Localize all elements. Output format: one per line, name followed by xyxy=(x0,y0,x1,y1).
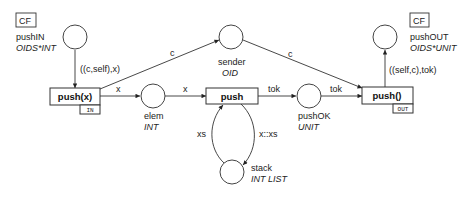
place-pushok xyxy=(297,84,321,108)
place-stack xyxy=(220,160,244,184)
arc-label-push-to-stack: x::xs xyxy=(259,129,278,139)
petri-net-diagram: ((c,self),x) x c x tok xs x::xs tok c ((… xyxy=(0,0,474,200)
arc-label-pushx-to-sender: c xyxy=(170,48,175,58)
transition-label-push-out: push() xyxy=(372,90,401,101)
place-label-pushout: pushOUT xyxy=(410,32,449,42)
cf-tag-pushin: CF xyxy=(19,16,31,26)
arc-label-pushok-to-pushout: tok xyxy=(330,84,343,94)
place-elem xyxy=(141,84,165,108)
arc-label-pushin-to-pushx: ((c,self),x) xyxy=(80,64,120,74)
transition-tag-out: OUT xyxy=(398,106,409,113)
arc-label-pushout-to-pushoutplace: ((self,c),tok) xyxy=(389,65,437,75)
transition-label-push-x: push(x) xyxy=(58,91,92,102)
place-type-pushin: OIDS*INT xyxy=(16,43,58,53)
cf-tag-pushout: CF xyxy=(413,16,425,26)
place-type-pushok: UNIT xyxy=(298,122,320,132)
arc-label-sender-to-pushout: c xyxy=(288,49,293,59)
place-type-pushout: OIDS*UNIT xyxy=(410,43,458,53)
place-label-pushin: pushIN xyxy=(16,32,45,42)
place-label-elem: elem xyxy=(144,111,164,121)
place-pushout xyxy=(373,25,397,49)
place-label-pushok: pushOK xyxy=(298,111,331,121)
place-type-stack: INT LIST xyxy=(251,174,289,184)
place-type-elem: INT xyxy=(144,122,160,132)
arc-sender-to-pushout xyxy=(243,40,362,88)
place-sender xyxy=(219,25,243,49)
transition-tag-in: IN xyxy=(86,107,94,114)
arc-label-stack-to-push: xs xyxy=(197,129,207,139)
arc-label-pushx-to-elem: x xyxy=(116,84,121,94)
arc-label-push-to-pushok: tok xyxy=(268,84,281,94)
arc-push-to-stack xyxy=(241,104,254,165)
place-label-sender: sender xyxy=(218,57,246,67)
arc-stack-to-push xyxy=(212,105,224,163)
diagram-svg: ((c,self),x) x c x tok xs x::xs tok c ((… xyxy=(0,0,474,200)
transition-label-push: push xyxy=(221,91,244,102)
arc-label-elem-to-push: x xyxy=(183,84,188,94)
place-pushin xyxy=(63,25,87,49)
place-type-sender: OID xyxy=(222,68,239,78)
place-label-stack: stack xyxy=(251,163,273,173)
